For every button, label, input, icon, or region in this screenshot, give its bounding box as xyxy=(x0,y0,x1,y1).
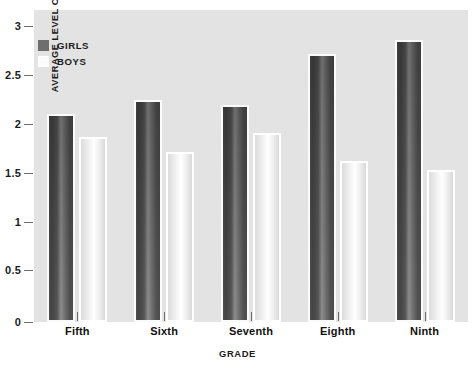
legend: GIRLS BOYS xyxy=(38,38,89,70)
bar-sixth-boys xyxy=(166,152,194,322)
y-tick-label: 3 xyxy=(15,20,24,32)
x-tick-label-eighth: Eighth xyxy=(288,325,388,337)
y-tick-4: 2 xyxy=(0,118,34,130)
x-tick-label-seventh: Seventh xyxy=(201,325,301,337)
y-tick-label: 2 xyxy=(15,118,24,130)
y-tick-mark xyxy=(24,124,33,125)
x-tick-label-sixth: Sixth xyxy=(114,325,214,337)
bar-seventh-boys xyxy=(253,133,281,322)
y-tick-2: 1 xyxy=(0,216,34,228)
y-tick-mark xyxy=(24,26,33,27)
legend-label-boys: BOYS xyxy=(57,56,86,67)
x-tick-mark xyxy=(338,312,339,321)
y-tick-label: 2.5 xyxy=(5,69,24,81)
x-tick-label-fifth: Fifth xyxy=(27,325,127,337)
y-tick-label: 0.5 xyxy=(5,264,24,276)
x-tick-mark xyxy=(77,312,78,321)
bar-ninth-girls xyxy=(395,40,423,322)
x-tick-mark xyxy=(425,312,426,321)
y-tick-mark xyxy=(24,322,33,323)
y-tick-5: 2.5 xyxy=(0,69,34,81)
x-axis-title: GRADE xyxy=(0,348,475,359)
y-tick-label: 0 xyxy=(15,316,24,328)
y-tick-mark xyxy=(24,222,33,223)
bar-eighth-boys xyxy=(340,161,368,322)
y-tick-mark xyxy=(24,75,33,76)
bar-fifth-boys xyxy=(79,137,107,322)
bar-ninth-boys xyxy=(427,170,455,322)
y-tick-mark xyxy=(24,270,33,271)
y-tick-label: 1 xyxy=(15,216,24,228)
bar-sixth-girls xyxy=(134,100,162,322)
x-tick-label-ninth: Ninth xyxy=(375,325,475,337)
y-tick-3: 1.5 xyxy=(0,167,34,179)
y-tick-1: 0.5 xyxy=(0,264,34,276)
x-tick-mark xyxy=(251,312,252,321)
legend-label-girls: GIRLS xyxy=(57,40,89,51)
y-tick-6: 3 xyxy=(0,20,34,32)
bar-eighth-girls xyxy=(308,54,336,322)
legend-item-boys: BOYS xyxy=(38,54,89,68)
y-tick-mark xyxy=(24,173,33,174)
legend-item-girls: GIRLS xyxy=(38,38,89,52)
legend-swatch-boys-icon xyxy=(38,56,49,67)
y-tick-label: 1.5 xyxy=(5,167,24,179)
legend-swatch-girls-icon xyxy=(38,40,49,51)
x-tick-mark xyxy=(164,312,165,321)
bar-chart: 0 0.5 1 1.5 2 2.5 3 AVERAGE LEVEL OF xyxy=(0,0,475,382)
bar-fifth-girls xyxy=(47,114,75,322)
bar-seventh-girls xyxy=(221,105,249,322)
